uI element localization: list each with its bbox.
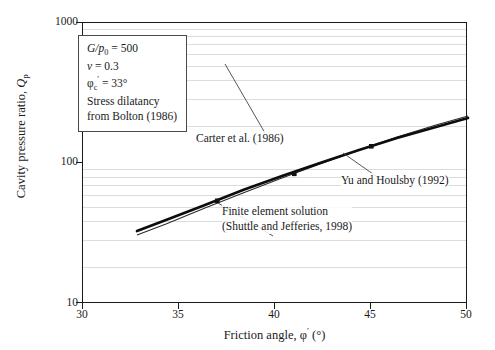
series-fe-marker bbox=[292, 172, 297, 177]
xtick-label-40: 40 bbox=[254, 308, 294, 320]
annotation-fe-line2: (Shuttle and Jefferies, 1998) bbox=[222, 219, 352, 234]
ytick-label-10: 10 bbox=[34, 296, 78, 308]
leader-line-carter bbox=[225, 64, 265, 133]
annotation-carter: Carter et al. (1986) bbox=[196, 131, 284, 146]
parameter-legend-box: G/p0 = 500 ν = 0.3 φc′ = 33° Stress dila… bbox=[78, 35, 187, 132]
legend-line-phi-crit: φc′ = 33° bbox=[87, 74, 177, 93]
legend-line-modulus: G/p0 = 500 bbox=[87, 41, 177, 59]
series-fe-marker bbox=[215, 199, 220, 204]
xtick-30-text: 30 bbox=[76, 308, 88, 320]
x-axis-label: Friction angle, φ′ (°) bbox=[82, 326, 467, 343]
xtick-45-text: 45 bbox=[364, 308, 376, 320]
x-axis-symbol: φ bbox=[300, 328, 307, 342]
annotation-fe-line1: Finite element solution bbox=[222, 204, 352, 219]
legend-modulus-symbol: G/p bbox=[87, 42, 104, 54]
y-axis-label-text: Cavity pressure ratio, bbox=[14, 88, 28, 198]
ytick-label-1000: 1000 bbox=[34, 15, 78, 27]
legend-line-poisson: ν = 0.3 bbox=[87, 59, 177, 75]
xtick-40-text: 40 bbox=[268, 308, 280, 320]
legend-phi-symbol: φ bbox=[87, 77, 94, 89]
x-axis-unit: (°) bbox=[312, 328, 325, 342]
xtick-label-45: 45 bbox=[350, 308, 390, 320]
y-axis-subscript: p bbox=[20, 74, 30, 79]
legend-poisson-value: = 0.3 bbox=[92, 60, 119, 72]
y-axis-symbol: Q bbox=[14, 79, 28, 88]
series-fe-marker bbox=[369, 144, 374, 149]
chart-figure: Cavity pressure ratio, Qp 1000 100 10 bbox=[0, 0, 495, 350]
legend-modulus-value: = 500 bbox=[108, 42, 138, 54]
legend-line-reference: from Bolton (1986) bbox=[87, 109, 177, 125]
xtick-label-50: 50 bbox=[446, 308, 486, 320]
xtick-label-30: 30 bbox=[62, 308, 102, 320]
xtick-label-35: 35 bbox=[158, 308, 198, 320]
x-axis-label-text: Friction angle, bbox=[224, 328, 300, 342]
xtick-35-text: 35 bbox=[172, 308, 184, 320]
ytick-label-100: 100 bbox=[34, 155, 78, 167]
legend-phi-value: = 33° bbox=[99, 77, 127, 89]
legend-phi-subscript: c bbox=[94, 83, 98, 92]
y-axis-label: Cavity pressure ratio, Qp bbox=[14, 26, 31, 246]
legend-line-dilatancy: Stress dilatancy bbox=[87, 94, 177, 110]
ytick-1000-text: 1000 bbox=[55, 15, 78, 27]
xtick-50-text: 50 bbox=[460, 308, 472, 320]
annotation-yu-houlsby: Yu and Houlsby (1992) bbox=[341, 173, 449, 188]
x-axis-prime: ′ bbox=[307, 326, 309, 336]
annotation-finite-element: Finite element solution (Shuttle and Jef… bbox=[222, 204, 352, 234]
